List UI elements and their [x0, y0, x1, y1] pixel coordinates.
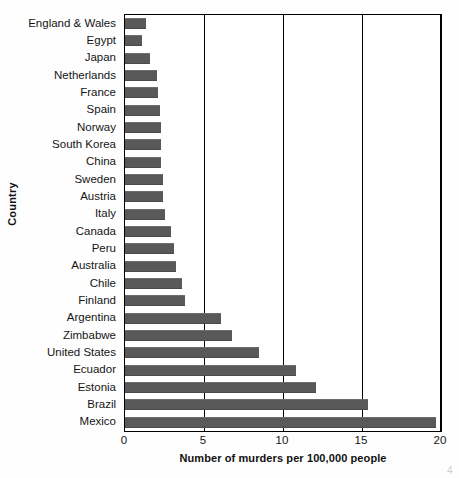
- bar-row: [125, 67, 441, 84]
- category-label: Canada: [0, 222, 120, 239]
- x-axis-ticks: 05101520: [124, 432, 442, 450]
- bar-row: [125, 292, 441, 309]
- bar-row: [125, 171, 441, 188]
- bar-row: [125, 344, 441, 361]
- bar: [125, 278, 182, 289]
- category-label: Peru: [0, 239, 120, 256]
- plot-area: [124, 14, 442, 432]
- category-label: Austria: [0, 187, 120, 204]
- bar-row: [125, 32, 441, 49]
- bar-row: [125, 310, 441, 327]
- category-label: Mexico: [0, 413, 120, 430]
- category-label: Japan: [0, 49, 120, 66]
- bar: [125, 191, 163, 202]
- bar: [125, 313, 221, 324]
- bar: [125, 243, 174, 254]
- bar: [125, 226, 171, 237]
- bar: [125, 70, 157, 81]
- category-label: England & Wales: [0, 14, 120, 31]
- bar-row: [125, 327, 441, 344]
- bar-row: [125, 206, 441, 223]
- bar: [125, 174, 163, 185]
- category-label: Ecuador: [0, 361, 120, 378]
- bar-row: [125, 102, 441, 119]
- x-tick-label: 15: [355, 434, 368, 446]
- category-label: Italy: [0, 205, 120, 222]
- bar-row: [125, 414, 441, 431]
- category-label: Egypt: [0, 31, 120, 48]
- category-label: Finland: [0, 291, 120, 308]
- bar: [125, 347, 259, 358]
- bar-row: [125, 154, 441, 171]
- category-label: United States: [0, 343, 120, 360]
- category-label-column: England & WalesEgyptJapanNetherlandsFran…: [0, 14, 120, 430]
- category-label: France: [0, 83, 120, 100]
- bar-row: [125, 223, 441, 240]
- bar: [125, 330, 232, 341]
- bar: [125, 261, 176, 272]
- bar-row: [125, 188, 441, 205]
- category-label: Zimbabwe: [0, 326, 120, 343]
- category-label: Brazil: [0, 395, 120, 412]
- bar: [125, 295, 185, 306]
- category-label: Sweden: [0, 170, 120, 187]
- bar: [125, 399, 368, 410]
- bar: [125, 157, 161, 168]
- bar-series: [125, 15, 441, 431]
- x-tick-label: 5: [200, 434, 206, 446]
- chart-page: Country England & WalesEgyptJapanNetherl…: [0, 0, 459, 478]
- bar-row: [125, 258, 441, 275]
- category-label: Estonia: [0, 378, 120, 395]
- category-label: Argentina: [0, 309, 120, 326]
- bar: [125, 105, 160, 116]
- x-tick-label: 20: [434, 434, 447, 446]
- bar: [125, 417, 436, 428]
- corner-artifact: 4: [447, 466, 455, 476]
- bar-row: [125, 396, 441, 413]
- bar-row: [125, 379, 441, 396]
- bar: [125, 53, 150, 64]
- category-label: South Korea: [0, 135, 120, 152]
- x-tick-label: 0: [121, 434, 127, 446]
- bar-row: [125, 15, 441, 32]
- category-label: China: [0, 153, 120, 170]
- bar: [125, 87, 158, 98]
- bar-row: [125, 84, 441, 101]
- bar: [125, 35, 142, 46]
- bar: [125, 365, 296, 376]
- category-label: Netherlands: [0, 66, 120, 83]
- chart-title-cropped: [0, 0, 459, 9]
- bar-row: [125, 50, 441, 67]
- bar: [125, 209, 165, 220]
- bar: [125, 18, 146, 29]
- x-tick-label: 10: [276, 434, 289, 446]
- category-label: Chile: [0, 274, 120, 291]
- bar-row: [125, 362, 441, 379]
- category-label: Norway: [0, 118, 120, 135]
- bar: [125, 122, 161, 133]
- bar-row: [125, 136, 441, 153]
- bar: [125, 382, 316, 393]
- bar-row: [125, 240, 441, 257]
- bar-row: [125, 119, 441, 136]
- bar: [125, 139, 161, 150]
- bar-row: [125, 275, 441, 292]
- x-axis-label: Number of murders per 100,000 people: [124, 452, 442, 464]
- category-label: Spain: [0, 101, 120, 118]
- category-label: Australia: [0, 257, 120, 274]
